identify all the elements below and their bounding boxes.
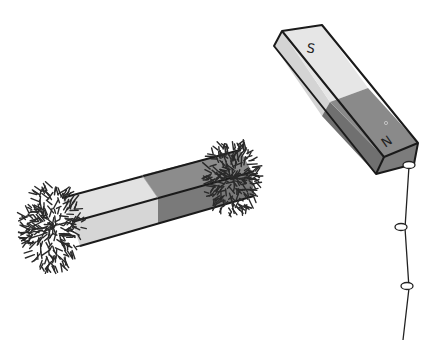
paper-clip-3 — [401, 283, 413, 290]
paper-clip-chain — [395, 162, 415, 341]
paper-clip-2 — [395, 224, 407, 231]
hanging-bar-magnet: S N — [274, 25, 418, 174]
filings-bar-magnet — [62, 150, 254, 246]
paper-clip-1 — [403, 162, 415, 169]
magnets-illustration: S N — [0, 0, 440, 349]
